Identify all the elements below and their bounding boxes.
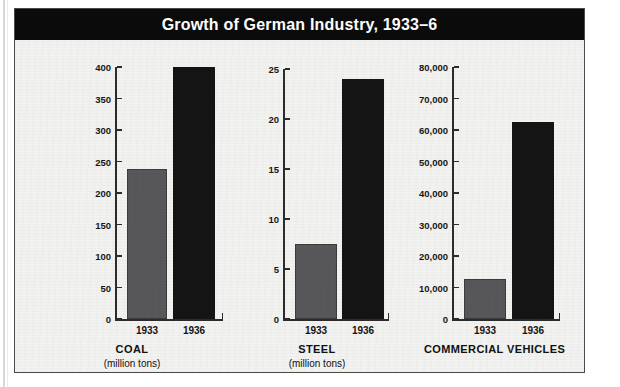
y-tick-mark — [117, 98, 122, 100]
bar-steel-1933 — [295, 244, 337, 319]
y-tick-label: 70,000 — [403, 93, 448, 104]
panel-caption-title-coal: COAL — [33, 343, 231, 355]
y-tick-mark — [117, 129, 122, 131]
x-axis-end-cap-vehicles — [559, 313, 561, 320]
chart-panels: 050100150200250300350400 1933 1936 COAL … — [15, 40, 584, 374]
y-tick-label: 0 — [403, 314, 448, 325]
y-tick-label: 300 — [33, 125, 111, 136]
y-tick-mark — [285, 168, 290, 170]
y-tick-mark — [454, 66, 459, 68]
y-tick-label: 10,000 — [403, 282, 448, 293]
y-tick-label: 400 — [33, 62, 111, 73]
y-tick-label: 20 — [231, 114, 279, 125]
x-axis-end-cap-coal — [222, 313, 224, 320]
y-tick-label: 60,000 — [403, 125, 448, 136]
panel-caption-steel: STEEL (million tons) — [231, 343, 403, 369]
panel-caption-coal: COAL (million tons) — [33, 343, 231, 369]
y-tick-label: 250 — [33, 156, 111, 167]
y-tick-label: 200 — [33, 188, 111, 199]
x-axis-vehicles — [452, 319, 560, 321]
figure-title-bar: Growth of German Industry, 1933–6 — [15, 9, 584, 40]
bar-vehicles-1933 — [464, 279, 506, 319]
x-tick-label-coal-1936: 1936 — [173, 325, 215, 336]
panel-caption-subtitle-steel: (million tons) — [231, 358, 403, 369]
y-tick-label: 20,000 — [403, 251, 448, 262]
x-axis-steel — [283, 319, 389, 321]
panel-caption-subtitle-coal: (million tons) — [33, 358, 231, 369]
y-tick-mark — [454, 287, 459, 289]
bar-steel-1936 — [342, 79, 384, 319]
y-tick-label: 50,000 — [403, 156, 448, 167]
y-tick-mark — [117, 224, 122, 226]
y-tick-mark — [117, 192, 122, 194]
y-tick-mark — [454, 255, 459, 257]
plot-area-steel: 0510152025 1933 1936 — [231, 40, 403, 330]
y-tick-mark — [285, 318, 290, 320]
y-tick-mark — [117, 255, 122, 257]
y-tick-mark — [285, 268, 290, 270]
chart-plate: Growth of German Industry, 1933–6 050100… — [14, 8, 585, 373]
y-tick-mark — [117, 318, 122, 320]
y-tick-label: 5 — [231, 264, 279, 275]
y-tick-label: 30,000 — [403, 219, 448, 230]
chart-panel-coal: 050100150200250300350400 1933 1936 COAL … — [33, 40, 231, 374]
plot-area-vehicles: 010,00020,00030,00040,00050,00060,00070,… — [403, 40, 586, 330]
y-tick-label: 80,000 — [403, 62, 448, 73]
panel-caption-title-steel: STEEL — [231, 343, 403, 355]
figure-root: Growth of German Industry, 1933–6 050100… — [0, 0, 620, 387]
figure-title: Growth of German Industry, 1933–6 — [162, 16, 438, 34]
panel-caption-vehicles: COMMERCIAL VEHICLES — [403, 343, 586, 358]
y-tick-mark — [285, 218, 290, 220]
y-tick-mark — [454, 129, 459, 131]
x-tick-label-vehicles-1936: 1936 — [512, 325, 554, 336]
scan-edge-line-secondary — [7, 0, 8, 387]
y-tick-mark — [117, 161, 122, 163]
y-tick-label: 40,000 — [403, 188, 448, 199]
y-tick-label: 15 — [231, 164, 279, 175]
chart-panel-vehicles: 010,00020,00030,00040,00050,00060,00070,… — [403, 40, 586, 374]
bar-vehicles-1936 — [512, 122, 554, 319]
y-tick-mark — [454, 161, 459, 163]
y-tick-label: 25 — [231, 64, 279, 75]
y-tick-label: 0 — [33, 314, 111, 325]
bar-coal-1933 — [127, 169, 167, 319]
x-axis-coal — [115, 319, 223, 321]
x-axis-end-cap-steel — [388, 313, 390, 320]
y-tick-label: 150 — [33, 219, 111, 230]
x-tick-label-steel-1936: 1936 — [342, 325, 384, 336]
y-tick-label: 0 — [231, 314, 279, 325]
y-tick-label: 100 — [33, 251, 111, 262]
x-tick-label-coal-1933: 1933 — [127, 325, 167, 336]
y-tick-label: 50 — [33, 282, 111, 293]
plot-area-coal: 050100150200250300350400 1933 1936 — [33, 40, 231, 330]
panel-caption-title-vehicles: COMMERCIAL VEHICLES — [403, 343, 586, 355]
y-axis-steel — [283, 69, 285, 320]
y-tick-mark — [285, 68, 290, 70]
x-tick-label-vehicles-1933: 1933 — [464, 325, 506, 336]
y-tick-mark — [285, 118, 290, 120]
scan-edge-line — [3, 0, 5, 387]
y-tick-mark — [454, 98, 459, 100]
y-tick-mark — [454, 318, 459, 320]
x-tick-label-steel-1933: 1933 — [295, 325, 337, 336]
y-tick-mark — [454, 192, 459, 194]
y-tick-mark — [117, 66, 122, 68]
y-tick-mark — [454, 224, 459, 226]
y-tick-mark — [117, 287, 122, 289]
chart-panel-steel: 0510152025 1933 1936 STEEL (million tons… — [231, 40, 403, 374]
y-tick-label: 350 — [33, 93, 111, 104]
bar-coal-1936 — [173, 67, 215, 319]
y-tick-label: 10 — [231, 214, 279, 225]
